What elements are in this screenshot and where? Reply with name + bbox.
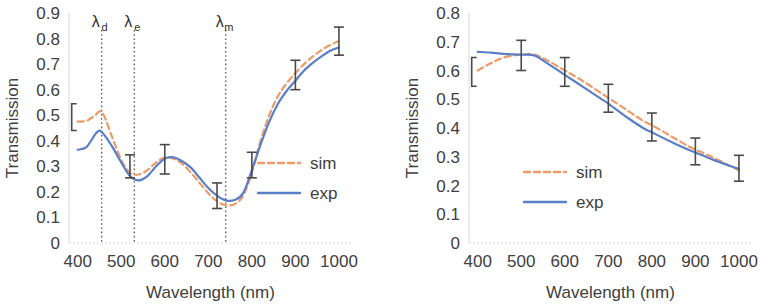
x-tick-label: 900 bbox=[681, 252, 709, 271]
x-axis-title: Wavelength (nm) bbox=[546, 283, 675, 302]
y-axis-ticks: 00.10.20.30.40.50.60.70.80.9 bbox=[36, 4, 60, 253]
y-tick-label: 0 bbox=[451, 234, 460, 253]
annotation-label-lambda-e: λe bbox=[124, 13, 140, 33]
legend-label-sim: sim bbox=[310, 154, 336, 173]
annotation-subscript: m bbox=[224, 21, 233, 33]
y-tick-label: 0.7 bbox=[36, 55, 60, 74]
annotation-subscript: d bbox=[102, 21, 108, 33]
annotation-subscript: e bbox=[134, 21, 140, 33]
figure-root: 00.10.20.30.40.50.60.70.80.9λdλeλm400500… bbox=[0, 0, 768, 308]
x-axis-title: Wavelength (nm) bbox=[146, 283, 275, 302]
y-tick-label: 0.7 bbox=[436, 33, 460, 52]
y-tick-label: 0.6 bbox=[436, 62, 460, 81]
error-bar bbox=[603, 84, 613, 112]
legend-label-exp: exp bbox=[576, 193, 603, 212]
chart-svg-left: 00.10.20.30.40.50.60.70.80.9λdλeλm400500… bbox=[0, 0, 384, 308]
x-tick-label: 1000 bbox=[320, 252, 358, 271]
error-bar bbox=[72, 104, 77, 131]
y-tick-label: 0.4 bbox=[436, 119, 460, 138]
chart-panel-right: 00.10.20.30.40.50.60.70.8400500600700800… bbox=[384, 0, 768, 308]
annotation-lambda: λ bbox=[92, 13, 100, 30]
y-tick-label: 0 bbox=[51, 234, 60, 253]
y-tick-label: 0.9 bbox=[36, 4, 60, 23]
x-axis-ticks: 4005006007008009001000 bbox=[64, 252, 358, 271]
x-tick-label: 700 bbox=[594, 252, 622, 271]
y-tick-label: 0.1 bbox=[436, 205, 460, 224]
y-axis-title: Transmission bbox=[3, 78, 22, 178]
y-tick-label: 0.2 bbox=[436, 177, 460, 196]
x-tick-label: 900 bbox=[281, 252, 309, 271]
y-tick-label: 0.6 bbox=[36, 81, 60, 100]
error-bars bbox=[472, 40, 744, 181]
error-bar bbox=[212, 183, 222, 209]
error-bars bbox=[72, 27, 344, 208]
annotation-lambda: λ bbox=[124, 13, 132, 30]
legend-label-exp: exp bbox=[310, 184, 337, 203]
y-axis-title: Transmission bbox=[403, 78, 422, 178]
error-bar bbox=[334, 27, 344, 55]
annotation-label-lambda-m: λm bbox=[216, 13, 234, 33]
x-tick-label: 800 bbox=[638, 252, 666, 271]
y-tick-label: 0.1 bbox=[36, 208, 60, 227]
x-axis-ticks: 4005006007008009001000 bbox=[464, 252, 758, 271]
y-tick-label: 0.8 bbox=[36, 30, 60, 49]
x-tick-label: 600 bbox=[551, 252, 579, 271]
x-tick-label: 700 bbox=[194, 252, 222, 271]
chart-svg-right: 00.10.20.30.40.50.60.70.8400500600700800… bbox=[384, 0, 768, 308]
y-tick-label: 0.4 bbox=[36, 132, 60, 151]
error-bar bbox=[472, 58, 477, 87]
x-tick-label: 1000 bbox=[720, 252, 758, 271]
annotation-label-lambda-d: λd bbox=[92, 13, 108, 33]
series-sim bbox=[78, 41, 339, 205]
legend-label-sim: sim bbox=[576, 163, 602, 182]
x-tick-label: 400 bbox=[64, 252, 92, 271]
legend: simexp bbox=[258, 154, 337, 203]
series-exp bbox=[78, 48, 339, 201]
y-tick-label: 0.5 bbox=[436, 90, 460, 109]
x-tick-label: 500 bbox=[507, 252, 535, 271]
y-tick-label: 0.5 bbox=[36, 106, 60, 125]
y-tick-label: 0.2 bbox=[36, 183, 60, 202]
error-bar bbox=[125, 155, 135, 178]
annotation-lambda: λ bbox=[216, 13, 224, 30]
y-axis-ticks: 00.10.20.30.40.50.60.70.8 bbox=[436, 4, 460, 253]
x-tick-label: 600 bbox=[151, 252, 179, 271]
error-bar bbox=[247, 152, 257, 178]
y-tick-label: 0.8 bbox=[436, 4, 460, 23]
annotation-guides bbox=[102, 30, 226, 243]
chart-panel-left: 00.10.20.30.40.50.60.70.80.9λdλeλm400500… bbox=[0, 0, 384, 308]
y-tick-label: 0.3 bbox=[36, 157, 60, 176]
x-tick-label: 400 bbox=[464, 252, 492, 271]
error-bar-bracket bbox=[472, 58, 477, 87]
x-tick-label: 500 bbox=[107, 252, 135, 271]
x-tick-label: 800 bbox=[238, 252, 266, 271]
error-bar-bracket bbox=[72, 104, 77, 131]
y-tick-label: 0.3 bbox=[436, 148, 460, 167]
legend: simexp bbox=[524, 163, 603, 212]
